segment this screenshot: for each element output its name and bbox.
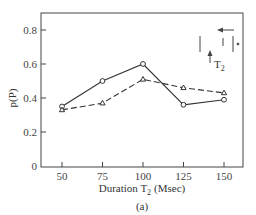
x-axis: 5075100125150 [57,162,233,182]
plot-frame [41,13,243,167]
x-axis-title-unit: (Msec) [154,182,185,195]
y-tick-label: 0.6 [23,58,37,70]
series-line-solid-circles [62,64,224,107]
circle-marker [141,62,146,67]
triangle-marker [100,100,105,105]
y-tick-label: 0.2 [23,126,37,138]
series-line-dashed-triangles [62,79,224,110]
y-axis: 00.20.40.60.8 [23,24,46,172]
circle-marker [222,97,227,102]
x-axis-title-sub: 2 [147,188,151,197]
arrow-up-head [208,50,213,56]
triangle-marker [140,77,145,82]
figure-caption: (a) [136,200,149,213]
y-axis-title: p(P) [6,88,19,107]
y-tick-label: 0 [32,160,38,172]
circle-marker [100,79,105,84]
inset-label: T2 [214,58,225,73]
x-tick-label: 125 [175,170,192,182]
x-axis-title: Duration T2(Msec) [99,182,186,197]
series-group [59,62,226,112]
inset-schematic: T2 [200,28,239,74]
x-tick-label: 100 [135,170,152,182]
arrow-left-head [217,28,223,33]
inset-label-sub: 2 [221,64,225,73]
x-tick-label: 75 [97,170,109,182]
y-tick-label: 0.8 [23,24,37,36]
triangle-marker [221,90,226,95]
x-tick-label: 150 [216,170,233,182]
x-tick-label: 50 [57,170,69,182]
triangle-marker [181,85,186,90]
circle-marker [181,102,186,107]
y-tick-label: 0.4 [23,92,37,104]
dot-icon [237,43,239,45]
chart: 00.20.40.60.8 5075100125150 p(P) Duratio… [0,0,256,215]
x-axis-title-main: Duration T [99,182,148,194]
